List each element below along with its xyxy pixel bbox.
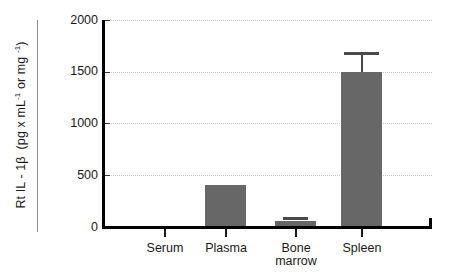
y-tick-label: 500 [50, 169, 98, 182]
x-tick-mark-plasma [225, 229, 227, 237]
y-axis-title-units-prefix: (pg x mL [14, 100, 28, 149]
x-category-label-line: Serum [147, 241, 184, 255]
y-axis-title-sup-2: -1 [13, 46, 22, 53]
x-category-label-line: Bone [281, 241, 310, 255]
y-tick-label: 0 [50, 221, 98, 234]
y-axis-title: Rt IL - 1β(pg x mL-1 or mg -1) [14, 41, 28, 208]
y-axis-title-rule [37, 20, 38, 232]
x-axis-line [102, 226, 432, 229]
y-tick-label: 1000 [50, 117, 98, 130]
y-tick-label: 2000 [50, 14, 98, 27]
bar-bone-marrow[interactable] [275, 221, 316, 226]
y-axis-title-sup-1: -1 [13, 93, 22, 100]
y-axis-title-group: Rt IL - 1β(pg x mL-1 or mg -1) [4, 18, 38, 232]
y-axis-title-units-suffix: ) [14, 41, 28, 45]
x-category-label-line: Spleen [343, 241, 382, 255]
errorbar-stem-spleen [361, 52, 363, 72]
bar-spleen[interactable] [341, 72, 382, 227]
x-category-label-line: marrow [251, 255, 341, 268]
x-category-label-line: Plasma [205, 241, 247, 255]
errorbar-cap-bone-marrow [283, 217, 308, 220]
x-tick-mark-spleen [361, 229, 363, 237]
bar-plasma[interactable] [205, 185, 246, 226]
y-tick-label: 1500 [50, 65, 98, 78]
plot-area [105, 20, 432, 226]
y-axis-tick-labels: 2000 1500 1000 500 0 [44, 0, 98, 280]
x-tick-mark-bone-marrow [295, 229, 297, 237]
bar-chart-figure: Rt IL - 1β(pg x mL-1 or mg -1) 2000 1500… [0, 0, 452, 280]
x-tick-mark-serum [164, 229, 166, 237]
y-axis-title-main: Rt IL - 1β [14, 156, 28, 208]
x-category-label-spleen: Spleen [317, 242, 407, 255]
errorbar-cap-spleen [344, 52, 379, 55]
y-axis-title-units-mid: or mg [14, 53, 28, 93]
